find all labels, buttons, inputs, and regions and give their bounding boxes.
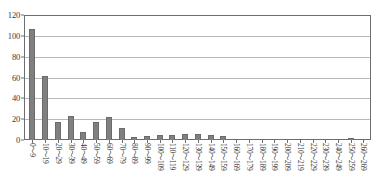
- x-label-slot: 150～159: [217, 143, 230, 183]
- x-label-slot: 190～199: [268, 143, 281, 183]
- x-tick-label: 50～59: [92, 143, 100, 164]
- x-axis: 0～910～1920～2930～3940～4950～5960～6970～7980…: [24, 143, 371, 183]
- x-tick-label: 260～269: [360, 143, 368, 170]
- bar: [106, 117, 112, 140]
- bar: [29, 29, 35, 140]
- bar: [93, 122, 99, 140]
- x-label-slot: 10～19: [39, 143, 52, 183]
- bar: [55, 122, 61, 140]
- bar: [68, 116, 74, 140]
- x-label-slot: 120～129: [179, 143, 192, 183]
- bar-slot: [115, 15, 128, 140]
- x-label-slot: 80～89: [128, 143, 141, 183]
- x-tick-label: 210～219: [296, 143, 304, 170]
- x-tick-label: 160～169: [232, 143, 240, 170]
- x-tick-label: 60～69: [105, 143, 113, 164]
- x-label-slot: 160～169: [230, 143, 243, 183]
- x-label-slot: 90～99: [141, 143, 154, 183]
- x-label-slot: 230～239: [319, 143, 332, 183]
- y-tick-label: 20: [12, 115, 20, 124]
- y-tick-label: 100: [8, 32, 20, 41]
- bar-slot: [344, 15, 357, 140]
- x-tick-label: 80～89: [130, 143, 138, 164]
- x-tick-label: 40～49: [80, 143, 88, 164]
- x-label-slot: 100～109: [153, 143, 166, 183]
- bar-slot: [255, 15, 268, 140]
- x-label-slot: 70～79: [115, 143, 128, 183]
- x-tick-label: 180～189: [258, 143, 266, 170]
- x-label-slot: 50～59: [90, 143, 103, 183]
- x-label-slot: 250～259: [344, 143, 357, 183]
- x-label-slot: 200～209: [281, 143, 294, 183]
- x-tick-label: 0～9: [29, 143, 37, 157]
- x-tick-label: 110～119: [169, 143, 177, 170]
- bar-slot: [90, 15, 103, 140]
- bar-slot: [268, 15, 281, 140]
- x-label-slot: 30～39: [64, 143, 77, 183]
- y-tick-label: 0: [16, 136, 20, 145]
- bar-slot: [141, 15, 154, 140]
- bar-slot: [39, 15, 52, 140]
- bar-slot: [242, 15, 255, 140]
- x-label-slot: 60～69: [102, 143, 115, 183]
- x-tick-label: 30～39: [67, 143, 75, 164]
- x-tick-label: 190～199: [271, 143, 279, 170]
- y-tick-label: 60: [12, 73, 20, 82]
- bar-slot: [230, 15, 243, 140]
- x-label-slot: 180～189: [255, 143, 268, 183]
- x-label-slot: 0～9: [26, 143, 39, 183]
- x-tick-label: 130～139: [194, 143, 202, 170]
- bar: [119, 128, 125, 141]
- x-tick-label: 230～239: [322, 143, 330, 170]
- x-tick-label: 250～259: [347, 143, 355, 170]
- x-tick-label: 170～179: [245, 143, 253, 170]
- x-tick-label: 120～129: [181, 143, 189, 170]
- x-label-slot: 110～119: [166, 143, 179, 183]
- bar-slot: [179, 15, 192, 140]
- bar-slot: [128, 15, 141, 140]
- bar-slot: [64, 15, 77, 140]
- x-tick-label: 90～99: [143, 143, 151, 164]
- bar-slot: [357, 15, 370, 140]
- x-tick-label: 100～109: [156, 143, 164, 170]
- x-label-slot: 170～179: [242, 143, 255, 183]
- bar-chart: 020406080100120 0～910～1920～2930～3940～495…: [0, 0, 375, 183]
- x-tick-label: 240～249: [334, 143, 342, 170]
- bar-slot: [281, 15, 294, 140]
- x-label-slot: 220～229: [306, 143, 319, 183]
- y-tick-label: 40: [12, 94, 20, 103]
- bar-slot: [319, 15, 332, 140]
- bar-slot: [102, 15, 115, 140]
- x-tick-label: 150～159: [220, 143, 228, 170]
- x-tick-label: 70～79: [118, 143, 126, 164]
- bar: [80, 132, 86, 140]
- x-label-slot: 20～29: [51, 143, 64, 183]
- x-label-slot: 140～149: [204, 143, 217, 183]
- bar-slot: [217, 15, 230, 140]
- bar-slot: [26, 15, 39, 140]
- bar-slot: [332, 15, 345, 140]
- x-tick-label: 200～209: [283, 143, 291, 170]
- bar: [42, 76, 48, 140]
- bar-slot: [192, 15, 205, 140]
- x-tick-label: 220～229: [309, 143, 317, 170]
- x-tick-label: 20～29: [54, 143, 62, 164]
- bars-layer: [24, 15, 371, 140]
- x-label-slot: 130～139: [192, 143, 205, 183]
- y-tick-label: 120: [8, 11, 20, 20]
- y-tick-label: 80: [12, 52, 20, 61]
- bar-slot: [166, 15, 179, 140]
- x-tick-label: 10～19: [41, 143, 49, 164]
- x-label-slot: 240～249: [332, 143, 345, 183]
- bar-slot: [51, 15, 64, 140]
- x-label-slot: 210～219: [293, 143, 306, 183]
- x-label-slot: 40～49: [77, 143, 90, 183]
- bar-slot: [77, 15, 90, 140]
- y-axis: 020406080100120: [0, 15, 22, 140]
- x-label-slot: 260～269: [357, 143, 370, 183]
- x-tick-label: 140～149: [207, 143, 215, 170]
- bar-slot: [306, 15, 319, 140]
- bar-slot: [153, 15, 166, 140]
- bar-slot: [293, 15, 306, 140]
- bar-slot: [204, 15, 217, 140]
